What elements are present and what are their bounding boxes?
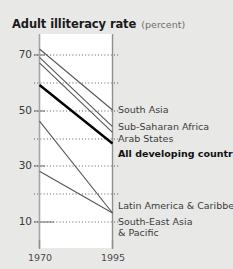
series-line-arab-states: [40, 63, 113, 133]
series-label-all-developing: All developing countries: [118, 148, 233, 159]
series-lines: [40, 49, 113, 213]
x-tick-label-1995: 1995: [91, 252, 135, 263]
series-label-south-east-asia-line1: South-East Asia: [118, 216, 192, 227]
x-tick-label-1970: 1970: [18, 252, 62, 263]
series-label-sub-saharan-africa: Sub-Saharan Africa: [118, 121, 209, 132]
series-line-south-asia: [40, 49, 113, 110]
y-tick-label-10: 10: [6, 215, 32, 227]
chart-lines-svg: [0, 0, 233, 269]
series-line-south-east-asia: [40, 171, 113, 213]
x-axis-ticks: [40, 240, 113, 249]
series-line-sub-saharan-africa: [40, 57, 113, 126]
plot-area: 70 50 30 10 1970 1995 South Asia Sub-Sah…: [0, 0, 233, 269]
series-label-arab-states: Arab States: [118, 133, 173, 144]
series-label-south-east-asia-line2: & Pacific: [118, 227, 159, 238]
chart-root: Adult illiteracy rate (percent): [0, 0, 233, 269]
series-label-south-asia: South Asia: [118, 104, 169, 115]
y-tick-label-70: 70: [6, 48, 32, 60]
series-label-latin-america: Latin America & Caribbean: [118, 200, 233, 211]
y-tick-label-30: 30: [6, 159, 32, 171]
axis-ticks: [34, 55, 54, 222]
y-tick-label-50: 50: [6, 104, 32, 116]
